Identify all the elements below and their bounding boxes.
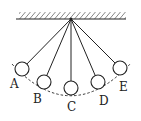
bob-e (113, 61, 127, 75)
bob-a (15, 62, 29, 76)
bob-c (64, 81, 78, 95)
label-a: A (9, 77, 19, 91)
bob-b (37, 75, 51, 89)
string-b (47, 19, 71, 76)
string-d (71, 19, 95, 76)
ceiling-hatch (19, 12, 126, 19)
label-c: C (67, 100, 76, 114)
pendulum-diagram: ABCDE (0, 0, 141, 121)
bob-d (91, 75, 105, 89)
pendulum-strings (27, 19, 115, 81)
pivot-point (70, 18, 73, 21)
label-d: D (99, 94, 109, 108)
string-e (71, 19, 115, 63)
string-a (27, 19, 71, 64)
label-e: E (119, 80, 128, 94)
label-b: B (33, 92, 42, 106)
